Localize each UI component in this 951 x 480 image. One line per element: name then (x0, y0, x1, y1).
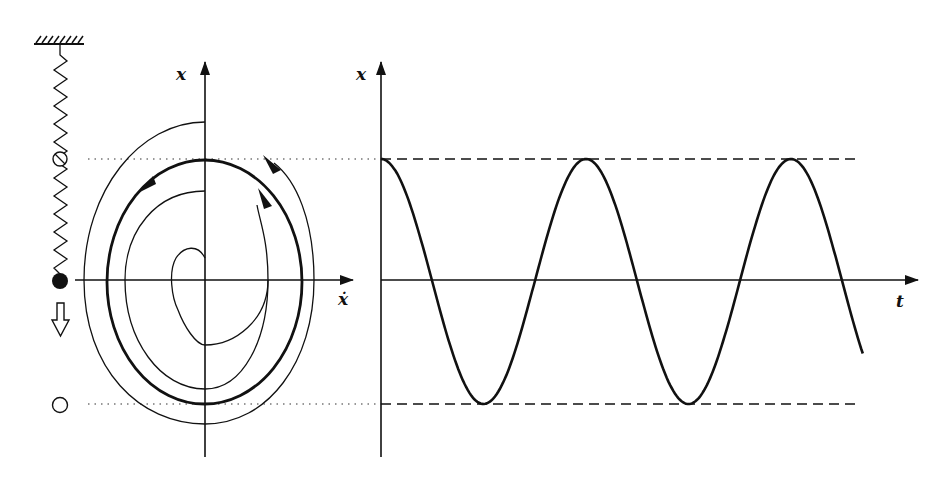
mass-lower-position-icon (53, 398, 68, 413)
innermost-spiral (172, 248, 268, 345)
ceiling-hatch (34, 36, 84, 44)
phase-xdot-label: ẋ (337, 289, 349, 309)
down-arrow-icon (52, 303, 69, 336)
t-label: t (896, 291, 904, 311)
figure-canvas: x ẋ x t (0, 0, 951, 480)
oscillation-curve (381, 159, 863, 404)
phase-x-label: x (175, 64, 187, 84)
time-history-plot: x t (355, 62, 918, 457)
time-plot-x-label: x (355, 64, 367, 84)
phase-portrait: x ẋ (75, 62, 353, 457)
arrow-limit-cycle-icon (140, 176, 156, 192)
mass-upper-position-icon (53, 152, 67, 166)
inner-spiral (125, 191, 268, 389)
outer-spiral (84, 122, 314, 424)
mass-equilibrium-icon (52, 273, 68, 289)
spring-mass-sketch (34, 36, 84, 413)
arrow-outer-spiral-icon (263, 155, 281, 174)
